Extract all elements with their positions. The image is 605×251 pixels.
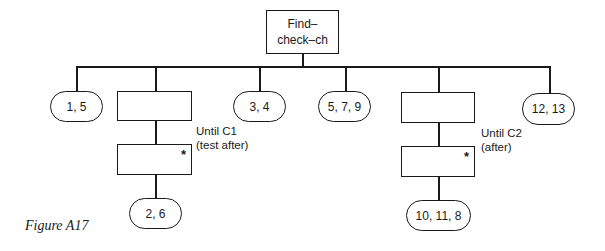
iteration-star-icon: * [464,151,469,163]
condition-label-c2: Until C2 (after) [481,126,522,154]
iteration-star-icon: * [181,149,186,161]
iteration-node-c2 [401,92,475,123]
leaf-node-3-4: 3, 4 [233,91,286,122]
connector [345,66,347,92]
iteration-node-c1 [117,91,192,121]
leaf-node-5-7-9: 5, 7, 9 [318,91,371,122]
connector [438,177,440,201]
figure-caption: Figure A17 [25,218,88,234]
connector [438,66,440,92]
iterated-node-c2: * [401,146,475,177]
connector [155,175,157,199]
connector [438,123,440,147]
connector [155,66,157,92]
connector [259,66,261,92]
leaf-node-10-11-8: 10, 11, 8 [406,200,471,231]
leaf-node-12-13: 12, 13 [522,93,575,125]
connector [549,66,551,94]
iterated-node-c1: * [117,144,192,175]
condition-label-c1: Until C1 (test after) [196,124,248,152]
connector [155,121,157,145]
sibling-bar [76,66,550,68]
connector [76,66,78,92]
root-node-find-check-ch: Find– check–ch [266,10,339,54]
leaf-node-2-6: 2, 6 [129,198,182,229]
leaf-node-1-5: 1, 5 [50,91,103,122]
